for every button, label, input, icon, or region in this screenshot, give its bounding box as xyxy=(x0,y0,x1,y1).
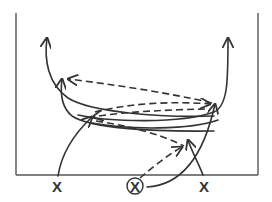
pass-from-ball-handler xyxy=(140,147,182,178)
player-ball-handler: X xyxy=(127,178,143,195)
player-right-label: X xyxy=(199,178,209,195)
player-ball-handler-label: X xyxy=(130,178,140,195)
pass-diagonal xyxy=(96,121,184,146)
play-diagram: X X X xyxy=(0,0,272,202)
player-left: X xyxy=(52,178,62,195)
player-left-label: X xyxy=(52,178,62,195)
cut-path-left-player xyxy=(58,117,92,176)
player-right: X xyxy=(199,178,209,195)
pass-upper-left xyxy=(68,79,212,103)
court-boundary xyxy=(16,13,258,175)
cut-path-top-left xyxy=(46,38,214,116)
